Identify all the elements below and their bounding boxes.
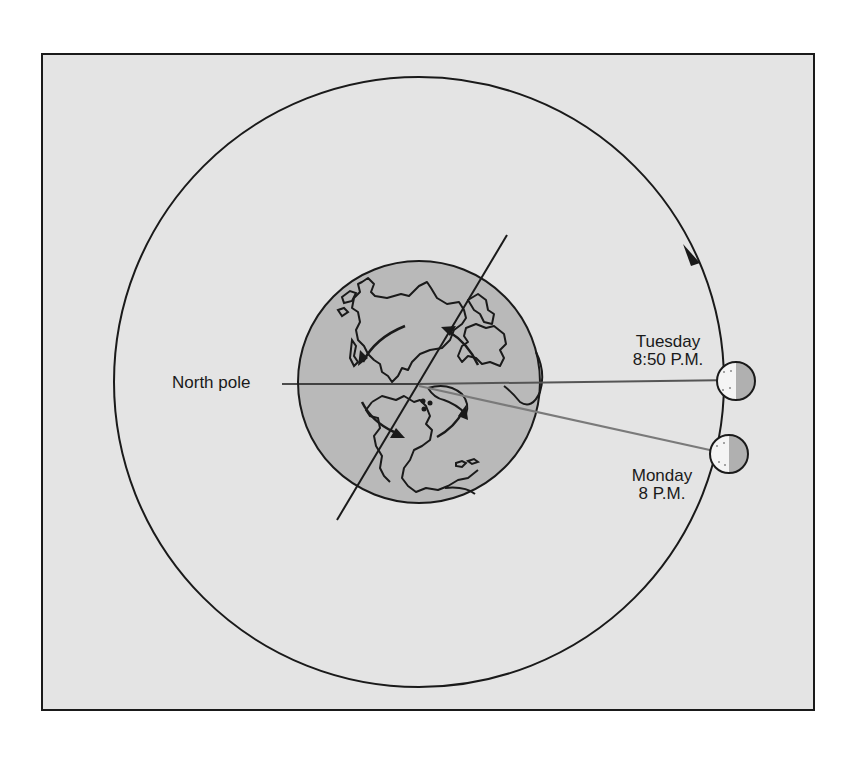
tuesday-label: Tuesday 8:50 P.M.	[618, 333, 718, 369]
monday-time: 8 P.M.	[612, 485, 712, 503]
tuesday-time: 8:50 P.M.	[618, 351, 718, 369]
tuesday-day: Tuesday	[618, 333, 718, 351]
orbit-direction-arrow-icon	[683, 244, 700, 266]
monday-label: Monday 8 P.M.	[612, 467, 712, 503]
north-pole-label: North pole	[172, 374, 250, 392]
moon-tuesday	[717, 362, 755, 400]
monday-day: Monday	[612, 467, 712, 485]
moon-orbit-diagram	[0, 0, 858, 764]
moon-monday	[710, 435, 748, 473]
